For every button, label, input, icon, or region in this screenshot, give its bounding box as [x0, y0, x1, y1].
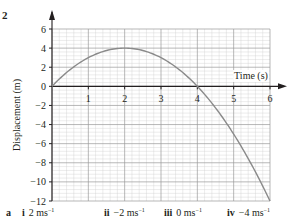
svg-text:0: 0 [41, 81, 46, 92]
svg-text:−2: −2 [35, 100, 46, 111]
answer-i: i2 ms−1 [22, 207, 54, 218]
svg-text:2: 2 [41, 62, 46, 73]
answer-ii: ii−2 ms−1 [104, 207, 145, 218]
svg-text:−10: −10 [30, 176, 46, 187]
grid-major [52, 29, 270, 201]
svg-text:6: 6 [41, 24, 46, 35]
svg-text:3: 3 [159, 93, 164, 104]
svg-text:1: 1 [86, 93, 91, 104]
answers-row: a i2 ms−1 ii−2 ms−1 iii0 ms−1 iv−4 ms−1 [0, 207, 290, 221]
svg-text:6: 6 [268, 93, 273, 104]
svg-text:5: 5 [231, 93, 236, 104]
svg-text:4: 4 [41, 43, 46, 54]
answer-iv: iv−4 ms−1 [227, 207, 270, 218]
answer-part-label: a [6, 207, 15, 218]
svg-text:−4: −4 [35, 119, 46, 130]
y-axis-label: Displacement (m) [11, 79, 23, 151]
svg-text:4: 4 [195, 93, 200, 104]
svg-text:2: 2 [122, 93, 127, 104]
svg-text:−12: −12 [30, 196, 46, 206]
svg-text:−8: −8 [35, 157, 46, 168]
displacement-time-chart: 1234566420−2−4−6−8−10−12 Time (s) Displa… [0, 0, 290, 205]
svg-text:−6: −6 [35, 138, 46, 149]
x-axis-label: Time (s) [234, 70, 268, 82]
answer-iii: iii0 ms−1 [164, 207, 202, 218]
